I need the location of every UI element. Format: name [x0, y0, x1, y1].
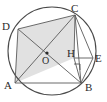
geometry-figure: A B C D H E O [0, 0, 107, 102]
vertex-label-d: D [2, 20, 10, 32]
center-label-o: O [42, 55, 49, 66]
vertex-label-e: E [95, 52, 102, 64]
vertex-label-b: B [85, 81, 92, 93]
vertex-label-a: A [4, 79, 12, 91]
vertex-label-c: C [71, 2, 78, 14]
geometry-canvas: A B C D H E O [0, 0, 107, 102]
vertex-label-h: H [67, 47, 75, 59]
